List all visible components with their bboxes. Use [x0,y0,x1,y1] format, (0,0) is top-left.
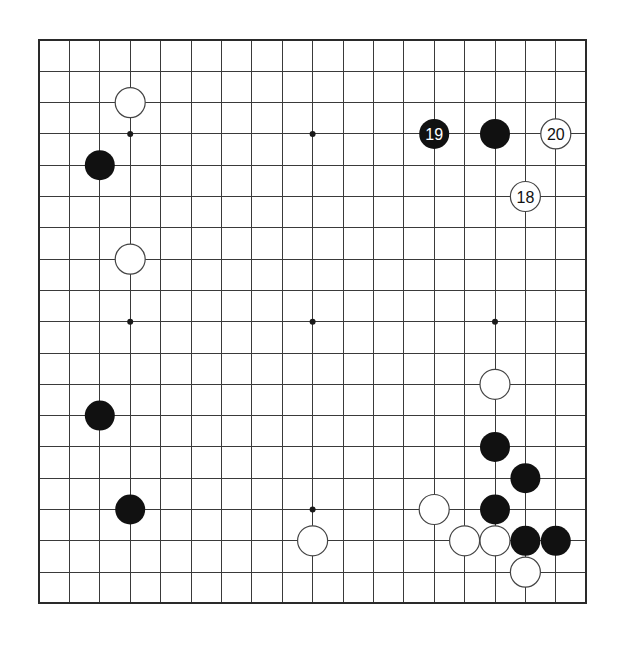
black-stone[interactable] [115,495,145,525]
black-stone[interactable] [541,526,571,556]
white-stone[interactable] [115,244,145,274]
star-point [492,319,498,325]
white-stone-icon [480,369,510,399]
star-point [310,507,316,513]
black-stone[interactable] [85,150,115,180]
black-stone-icon [480,495,510,525]
star-point [127,131,133,137]
white-stone[interactable] [480,369,510,399]
white-stone[interactable] [419,495,449,525]
star-point [127,319,133,325]
black-stone-icon [510,463,540,493]
move-number-label: 20 [547,126,565,143]
black-stone[interactable] [480,432,510,462]
black-stone[interactable] [480,495,510,525]
black-stone-icon [480,432,510,462]
black-stone-icon [115,495,145,525]
black-stone[interactable] [480,119,510,149]
black-stone-icon [480,119,510,149]
black-stone[interactable] [510,526,540,556]
white-stone[interactable] [115,88,145,118]
white-stone-icon [298,526,328,556]
white-stone[interactable] [450,526,480,556]
white-stone[interactable] [480,526,510,556]
black-stone[interactable] [85,401,115,431]
white-stone-icon [480,526,510,556]
white-stone-20[interactable]: 20 [541,119,571,149]
star-point [310,131,316,137]
white-stone-icon [115,88,145,118]
black-stone-icon [85,401,115,431]
move-number-label: 18 [517,189,535,206]
black-stone-icon [510,526,540,556]
white-stone[interactable] [510,557,540,587]
white-stone-icon [510,557,540,587]
white-stone-icon [115,244,145,274]
white-stone-icon [419,495,449,525]
black-stone-19[interactable]: 19 [419,119,449,149]
star-point [310,319,316,325]
white-stone[interactable] [298,526,328,556]
black-stone[interactable] [510,463,540,493]
go-board[interactable]: 192018 [0,0,626,647]
move-number-label: 19 [425,126,443,143]
white-stone-18[interactable]: 18 [510,182,540,212]
white-stone-icon [450,526,480,556]
black-stone-icon [85,150,115,180]
black-stone-icon [541,526,571,556]
